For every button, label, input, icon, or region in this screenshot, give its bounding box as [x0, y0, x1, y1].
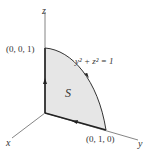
- point-top-label: (0, 0, 1): [6, 44, 35, 54]
- surface-diagram: z y x (0, 0, 1) (0, 1, 0) y² + z² = 1 S: [0, 0, 151, 154]
- y-axis-label: y: [137, 138, 143, 149]
- z-axis-label: z: [41, 5, 46, 16]
- surface-label: S: [65, 86, 71, 100]
- x-axis-label: x: [5, 137, 11, 148]
- curve-equation-label: y² + z² = 1: [74, 56, 114, 66]
- x-axis: [12, 113, 45, 138]
- point-right-label: (0, 1, 0): [86, 134, 115, 144]
